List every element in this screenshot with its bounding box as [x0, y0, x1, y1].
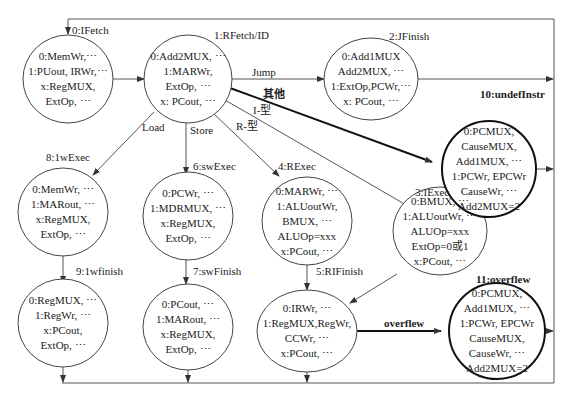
state-name-swexec: 6:swExec [193, 160, 236, 172]
state-body-iexec: 0:BMUX, ⋯ 1:ALUoutWr, ⋯ ALUOp=xxx ExtOp=… [403, 194, 478, 269]
signal-line: 1:MARout, ⋯ [156, 312, 220, 327]
signal-line: ExtOp, ⋯ [31, 227, 95, 242]
signal-line: 1:PUout, IRWr,⋯ [28, 64, 107, 79]
state-name-ifetch: 0:IFetch [72, 24, 109, 36]
signal-line: 0:MARWr, ⋯ [276, 184, 339, 199]
signal-line: CCWr, ⋯ [263, 331, 351, 346]
signal-line: 0:PCWr, ⋯ [150, 186, 226, 201]
signal-line: 0:PCout, ⋯ [156, 297, 220, 312]
signal-line: ExtOp, ⋯ [28, 94, 107, 109]
state-name-swfinish: 7:swFinish [193, 265, 241, 277]
signal-line: ExtOp, ⋯ [156, 342, 220, 357]
signal-line: 0:MemWr,⋯ [28, 49, 107, 64]
state-body-overflew: 0:PCMUX, Add1MUX, ⋯ 1:PCWr, EPCWr CauseM… [460, 286, 534, 376]
edge-label-store: Store [190, 124, 213, 136]
signal-line: x: PCout, ⋯ [331, 94, 411, 109]
signal-line: BMUX, ⋯ [276, 214, 339, 229]
signal-line: Add1MUX, ⋯ [452, 154, 526, 169]
signal-line: x:RegMUX, [156, 327, 220, 342]
signal-line: x:PCout, [29, 323, 97, 338]
signal-line: 1:MDRMUX, ⋯ [150, 201, 226, 216]
signal-line: 1:ExtOp,PCWr,⋯ [331, 79, 411, 94]
signal-line: 0:MemWr, ⋯ [31, 182, 95, 197]
signal-line: 1:RegMUX,RegWr, [263, 316, 351, 331]
signal-line: x:PCout, ⋯ [276, 244, 339, 259]
signal-line: 0:IRWr, ⋯ [263, 301, 351, 316]
edge-label-overflew: overflew [384, 317, 424, 329]
signal-line: ALUOp=xxx [403, 224, 478, 239]
signal-line: ALUOp=xxx [276, 229, 339, 244]
state-name-rexec: 4:RExec [278, 160, 316, 172]
signal-line: ExtOp=0或1 [403, 239, 478, 254]
edge-label-load: Load [142, 121, 165, 133]
signal-line: 1:MARout, ⋯ [31, 197, 95, 212]
signal-line: 1:ALUoutWr, ⋯ [403, 209, 478, 224]
signal-line: 0:Add1MUX [331, 49, 411, 64]
state-body-rifinish: 0:IRWr, ⋯ 1:RegMUX,RegWr, CCWr, ⋯ x:PCou… [263, 301, 351, 361]
signal-line: x:RegMUX, [31, 212, 95, 227]
signal-line: 1:RegWr, ⋯ [29, 308, 97, 323]
signal-line: 0:BMUX, ⋯ [403, 194, 478, 209]
state-name-lwfinish: 9:1wfinish [76, 265, 123, 277]
signal-line: x:RegMUX, [28, 79, 107, 94]
signal-line: 1:PCWr, EPCWr [452, 169, 526, 184]
state-name-rfetch: 1:RFetch/ID [214, 29, 269, 41]
state-name-undefinstr: 10:undefInstr [480, 88, 545, 100]
signal-line: x:RegMUX, [150, 216, 226, 231]
state-body-rexec: 0:MARWr, ⋯ 1:ALUoutWr, BMUX, ⋯ ALUOp=xxx… [276, 184, 339, 259]
signal-line: CauseWr, ⋯ [460, 346, 534, 361]
signal-line: ExtOp, ⋯ [150, 79, 225, 94]
signal-line: 1:PCWr, EPCWr [460, 316, 534, 331]
edge-iexec-rifinish [350, 274, 397, 303]
state-body-lwfinish: 0:RegMUX, ⋯ 1:RegWr, ⋯ x:PCout, ExtOp, ⋯ [29, 293, 97, 353]
signal-line: Add1MUX, ⋯ [460, 301, 534, 316]
signal-line: 0:RegMUX, ⋯ [29, 293, 97, 308]
signal-line: 1:ALUoutWr, [276, 199, 339, 214]
signal-line: 0:PCMUX, [460, 286, 534, 301]
state-body-rfetch: 0:Add2MUX, ⋯ 1:MARWr, ExtOp, ⋯ x: PCout,… [150, 49, 225, 109]
signal-line: 0:PCMUX, [452, 124, 526, 139]
signal-line: x:PCout, ⋯ [263, 346, 351, 361]
state-name-rifinish: 5:RIFinish [316, 265, 363, 277]
state-body-ifetch: 0:MemWr,⋯ 1:PUout, IRWr,⋯ x:RegMUX, ExtO… [28, 49, 107, 109]
edge-label-other: 其他 [263, 88, 285, 100]
signal-line: x: PCout, ⋯ [150, 94, 225, 109]
signal-line: 1:MARWr, [150, 64, 225, 79]
state-name-jfinish: 2:JFinish [389, 30, 429, 42]
signal-line: Add2MUX=2 [460, 361, 534, 376]
state-body-swexec: 0:PCWr, ⋯ 1:MDRMUX, ⋯ x:RegMUX, ExtOp, ⋯ [150, 186, 226, 246]
edge-label-itype: I-型 [253, 104, 271, 116]
state-name-lwexec: 8:1wExec [46, 151, 90, 163]
signal-line: 0:Add2MUX, ⋯ [150, 49, 225, 64]
state-body-swfinish: 0:PCout, ⋯ 1:MARout, ⋯ x:RegMUX, ExtOp, … [156, 297, 220, 357]
signal-line: ExtOp, ⋯ [150, 231, 226, 246]
signal-line: ExtOp, ⋯ [29, 338, 97, 353]
signal-line: CauseMUX, [452, 139, 526, 154]
edge-label-rtype: R-型 [236, 120, 258, 132]
signal-line: Add2MUX, ⋯ [331, 64, 411, 79]
state-body-lwexec: 0:MemWr, ⋯ 1:MARout, ⋯ x:RegMUX, ExtOp, … [31, 182, 95, 242]
signal-line: CauseMUX, [460, 331, 534, 346]
edge-label-jump: Jump [252, 66, 276, 78]
state-name-overflew: 11:overflew [476, 273, 530, 285]
signal-line: x:PCout, ⋯ [403, 254, 478, 269]
state-body-jfinish: 0:Add1MUX Add2MUX, ⋯ 1:ExtOp,PCWr,⋯ x: P… [331, 49, 411, 109]
